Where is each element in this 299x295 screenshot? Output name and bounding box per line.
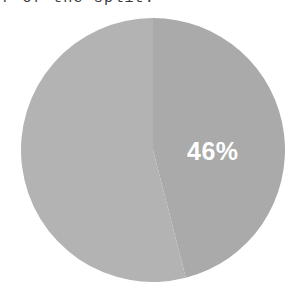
chart-plot-area: 46% — [0, 9, 299, 295]
truncated-caption-text: r of the split. — [2, 0, 155, 7]
pie-chart-svg — [21, 18, 285, 282]
pie-chart — [21, 18, 285, 282]
pie-chart-figure: r of the split. 46% — [0, 0, 299, 295]
caption-clipper: r of the split. — [0, 0, 299, 9]
